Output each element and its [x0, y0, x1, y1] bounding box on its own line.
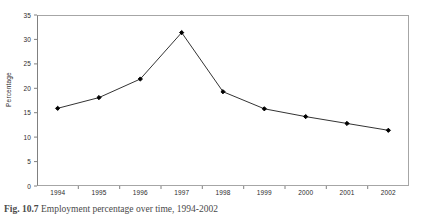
figure-caption-label: Fig. 10.7 [4, 204, 39, 214]
x-tick-label: 2002 [367, 189, 409, 197]
data-point [386, 128, 390, 132]
data-point [304, 115, 308, 119]
y-axis-ticks [34, 15, 37, 186]
figure-caption: Fig. 10.7 Employment percentage over tim… [4, 204, 424, 215]
plot-svg [0, 0, 427, 200]
x-tick-label: 1999 [243, 189, 285, 197]
data-point [345, 121, 349, 125]
data-point [56, 106, 60, 110]
data-point [97, 95, 101, 99]
data-point [262, 107, 266, 111]
x-tick-label: 1994 [37, 189, 79, 197]
figure-caption-text: Employment percentage over time, 1994-20… [41, 204, 218, 214]
x-axis-tick-labels: 1994 1995 1996 1997 1998 1999 2000 2001 … [37, 189, 409, 201]
x-tick-label: 2001 [326, 189, 368, 197]
x-tick-label: 1998 [202, 189, 244, 197]
data-series-line [58, 33, 389, 131]
line-chart: 35 30 25 20 15 10 5 0 Percentage [0, 0, 427, 200]
figure-container: 35 30 25 20 15 10 5 0 Percentage [0, 0, 427, 217]
x-tick-label: 1996 [119, 189, 161, 197]
x-tick-label: 1997 [161, 189, 203, 197]
x-tick-label: 2000 [285, 189, 327, 197]
x-tick-label: 1995 [78, 189, 120, 197]
data-series-markers [56, 30, 391, 132]
